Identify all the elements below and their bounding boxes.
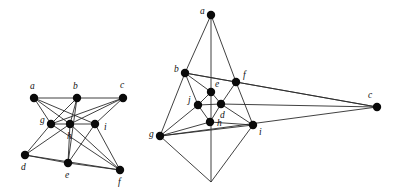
graph-vertex-a[interactable] xyxy=(30,94,38,102)
edge-layer xyxy=(160,15,377,182)
vertex-layer: abcghidef xyxy=(21,80,127,187)
vertex-label-g: g xyxy=(40,115,45,125)
graph-edge-i-apex xyxy=(211,125,253,182)
graph-edge-f-g xyxy=(51,124,120,170)
graph-edge-f-i xyxy=(236,82,253,125)
graph-vertex-h[interactable] xyxy=(206,118,214,126)
graph-edge-g-c xyxy=(160,107,377,136)
graph-edge-h-g xyxy=(160,122,210,136)
graph-edge-c-i xyxy=(95,98,123,124)
graph-vertex-c[interactable] xyxy=(119,94,127,102)
graph-vertex-f[interactable] xyxy=(116,166,124,174)
graph-vertex-d[interactable] xyxy=(21,151,29,159)
vertex-label-i: i xyxy=(104,122,107,132)
edge-layer xyxy=(25,98,123,170)
graph-edge-d-c xyxy=(221,104,377,107)
graph-vertex-b[interactable] xyxy=(73,94,81,102)
graph-edge-a-f xyxy=(211,15,236,82)
vertex-layer: abfejdhigc xyxy=(149,6,381,140)
graph-edge-d-i xyxy=(221,104,253,125)
vertex-label-i: i xyxy=(259,127,262,137)
graph-vertex-b[interactable] xyxy=(181,69,189,77)
graph-edge-e-f xyxy=(68,163,120,170)
vertex-label-h: h xyxy=(217,118,222,128)
vertex-label-c: c xyxy=(120,80,125,90)
graph-edge-b-g xyxy=(160,73,185,136)
graph-vertex-d[interactable] xyxy=(217,100,225,108)
graph-vertex-e[interactable] xyxy=(207,88,215,96)
graph-vertex-c[interactable] xyxy=(373,103,381,111)
graph-edge-g-apex xyxy=(160,136,211,182)
graph-vertex-e[interactable] xyxy=(64,159,72,167)
vertex-label-h: h xyxy=(67,131,72,141)
graph-figure: abcghidef abfejdhigc xyxy=(0,0,396,194)
vertex-label-g: g xyxy=(149,129,154,139)
graph-edge-a-b xyxy=(185,15,211,73)
graph-vertex-a[interactable] xyxy=(207,11,215,19)
vertex-label-j: j xyxy=(186,95,191,105)
left-graph-drawing: abcghidef xyxy=(21,80,127,187)
graph-vertex-f[interactable] xyxy=(232,78,240,86)
vertex-label-b: b xyxy=(174,64,179,74)
vertex-label-a: a xyxy=(200,6,205,16)
graph-vertex-j[interactable] xyxy=(194,101,202,109)
vertex-label-a: a xyxy=(30,81,35,91)
graph-edge-c-g xyxy=(51,98,123,124)
vertex-label-f: f xyxy=(118,177,122,187)
graph-vertex-i[interactable] xyxy=(249,121,257,129)
vertex-label-e: e xyxy=(65,170,69,180)
vertex-label-d: d xyxy=(21,162,26,172)
graph-edge-f-i xyxy=(95,124,120,170)
graph-canvas: abcghidef abfejdhigc xyxy=(0,0,396,194)
vertex-label-e: e xyxy=(215,79,219,89)
right-graph-drawing: abfejdhigc xyxy=(149,6,381,182)
graph-vertex-g[interactable] xyxy=(47,120,55,128)
vertex-label-c: c xyxy=(368,90,373,100)
vertex-label-b: b xyxy=(73,81,78,91)
graph-edge-f-c xyxy=(236,82,377,107)
graph-vertex-i[interactable] xyxy=(91,120,99,128)
graph-vertex-g[interactable] xyxy=(156,132,164,140)
graph-vertex-h[interactable] xyxy=(66,120,74,128)
vertex-label-f: f xyxy=(243,70,247,80)
